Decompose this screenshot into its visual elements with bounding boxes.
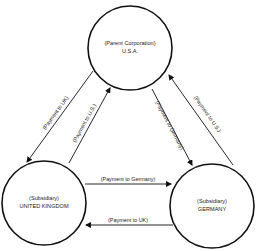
node-germany: (Subsidiary) GERMANY <box>170 164 254 248</box>
edge-usa-to-germany-label: (Payment to Germany) <box>154 100 185 151</box>
node-uk-role: (Subsidiary) <box>29 195 59 201</box>
edge-germany-to-uk: (Payment to UK) <box>86 217 173 225</box>
edge-usa-to-uk-label: (Payment to UK) <box>41 95 69 131</box>
node-usa: (Parent Corporation) U.S.A. <box>88 6 172 90</box>
node-uk: (Subsidiary) UNITED KINGDOM <box>2 161 86 245</box>
node-germany-role: (Subsidiary) <box>197 198 227 204</box>
node-usa-name: U.S.A. <box>122 48 139 54</box>
edge-germany-to-usa: (Payment to U.S.) <box>169 75 233 165</box>
node-usa-role: (Parent Corporation) <box>105 40 156 46</box>
edge-usa-to-uk: (Payment to UK) <box>27 71 93 162</box>
edge-germany-to-uk-label: (Payment to UK) <box>108 217 148 223</box>
edge-usa-to-germany: (Payment to Germany) <box>152 89 192 165</box>
edge-uk-to-usa: (Payment to U.S.) <box>69 88 110 163</box>
payment-flow-diagram: (Parent Corporation) U.S.A. (Subsidiary)… <box>0 0 261 251</box>
node-uk-name: UNITED KINGDOM <box>19 203 68 209</box>
edge-uk-to-usa-label: (Payment to U.S.) <box>71 103 97 144</box>
edge-uk-to-germany-label: (Payment to Germany) <box>101 176 156 182</box>
edge-germany-to-usa-label: (Payment to U.S.) <box>193 95 223 134</box>
node-germany-name: GERMANY <box>198 206 227 212</box>
edge-uk-to-germany: (Payment to Germany) <box>85 176 171 184</box>
